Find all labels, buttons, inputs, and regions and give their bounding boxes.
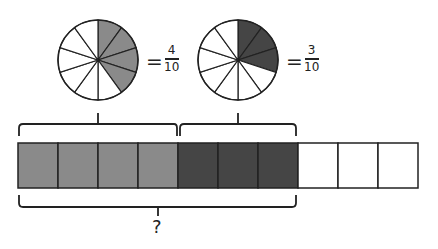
- bar-cell: [298, 143, 338, 188]
- equals-sign: =: [286, 49, 303, 73]
- bar-cell: [178, 143, 218, 188]
- top-bracket-2: [180, 113, 296, 136]
- bar-cell: [338, 143, 378, 188]
- bar-cell: [218, 143, 258, 188]
- top-bracket-1: [19, 113, 177, 136]
- question-mark: ?: [152, 216, 162, 237]
- bar-cell: [18, 143, 58, 188]
- equals-sign: =: [146, 49, 163, 73]
- fraction-diagram: [0, 0, 438, 249]
- bar-cell: [138, 143, 178, 188]
- bar-cell: [378, 143, 418, 188]
- bar-cell: [98, 143, 138, 188]
- bar-cell: [258, 143, 298, 188]
- denominator: 10: [304, 61, 319, 74]
- numerator: 4: [168, 44, 176, 57]
- denominator: 10: [164, 61, 179, 74]
- bar-cell: [58, 143, 98, 188]
- bottom-bracket: [19, 195, 296, 216]
- numerator: 3: [308, 44, 316, 57]
